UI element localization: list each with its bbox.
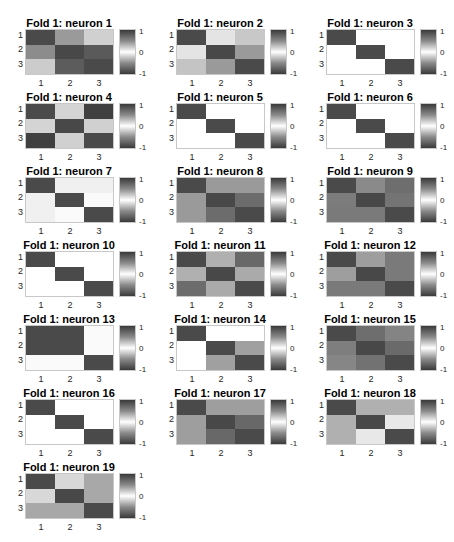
x-tick: 2 — [366, 78, 376, 88]
heatmap-cell-r1-c3 — [385, 400, 414, 415]
heatmap-cell-r3-c1 — [327, 207, 356, 222]
heatmap-cell-r2-c1 — [26, 267, 55, 282]
x-tick: 2 — [65, 448, 75, 458]
heatmap-cell-r2-c2 — [55, 45, 84, 60]
heatmap-cell-r3-c2 — [55, 281, 84, 296]
heatmap-cell-r2-c2 — [55, 193, 84, 208]
heatmap-cell-r2-c1 — [26, 193, 55, 208]
x-tick: 1 — [337, 300, 347, 310]
subplot-neuron-17: Fold 1: neuron 17 1 2 3 1 2 3 1 0 -1 — [152, 387, 302, 461]
heatmap-cell-r2-c1 — [177, 193, 206, 208]
colorbar-tick: -1 — [139, 143, 146, 152]
heatmap — [177, 104, 264, 148]
subplot-title: Fold 1: neuron 14 — [152, 313, 288, 325]
heatmap-cell-r3-c1 — [177, 133, 206, 148]
heatmap-cell-r3-c3 — [84, 429, 113, 444]
x-tick: 2 — [216, 152, 226, 162]
y-tick: 3 — [166, 429, 174, 439]
y-tick: 2 — [166, 118, 174, 128]
heatmap-cell-r1-c2 — [206, 104, 235, 119]
y-tick: 2 — [166, 44, 174, 54]
y-tick: 2 — [15, 118, 23, 128]
x-tick: 2 — [65, 152, 75, 162]
colorbar-tick: 1 — [440, 323, 444, 332]
heatmap-cell-r2-c1 — [327, 341, 356, 356]
heatmap-cell-r1-c3 — [235, 252, 264, 267]
subplot-title: Fold 1: neuron 15 — [302, 313, 438, 325]
subplot-neuron-7: Fold 1: neuron 7 1 2 3 1 2 3 1 0 -1 — [1, 165, 151, 239]
heatmap-cell-r1-c1 — [26, 178, 55, 193]
y-tick: 1 — [15, 104, 23, 114]
heatmap-cell-r1-c3 — [84, 30, 113, 45]
subplot-title: Fold 1: neuron 16 — [1, 387, 137, 399]
heatmap — [327, 104, 414, 148]
heatmap-cell-r1-c1 — [327, 252, 356, 267]
subplot-title: Fold 1: neuron 7 — [1, 165, 137, 177]
y-tick: 3 — [316, 281, 324, 291]
y-tick: 1 — [166, 326, 174, 336]
x-tick: 1 — [36, 226, 46, 236]
heatmap-cell-r3-c1 — [177, 355, 206, 370]
heatmap-cell-r3-c1 — [177, 59, 206, 74]
heatmap-cell-r2-c2 — [356, 45, 385, 60]
colorbar-tick: -1 — [440, 143, 447, 152]
x-tick: 3 — [395, 78, 405, 88]
heatmap-cell-r2-c1 — [177, 415, 206, 430]
heatmap-cell-r1-c1 — [177, 326, 206, 341]
colorbar-tick: 0 — [139, 418, 143, 427]
subplot-neuron-19: Fold 1: neuron 19 1 2 3 1 2 3 1 0 -1 — [1, 461, 151, 535]
heatmap-cell-r1-c1 — [177, 400, 206, 415]
colorbar-tick: 0 — [440, 122, 444, 131]
y-tick: 1 — [166, 30, 174, 40]
y-tick: 3 — [316, 133, 324, 143]
heatmap-cell-r3-c2 — [206, 133, 235, 148]
y-tick: 3 — [15, 133, 23, 143]
heatmap-cell-r2-c3 — [235, 267, 264, 282]
x-tick: 3 — [245, 152, 255, 162]
heatmap-cell-r1-c1 — [327, 326, 356, 341]
heatmap — [26, 30, 113, 74]
x-tick: 1 — [187, 226, 197, 236]
colorbar-tick: -1 — [290, 217, 297, 226]
heatmap-cell-r1-c1 — [26, 400, 55, 415]
heatmap-cell-r3-c3 — [84, 207, 113, 222]
heatmap-cell-r1-c1 — [177, 178, 206, 193]
heatmap-cell-r1-c2 — [206, 252, 235, 267]
heatmap-cell-r2-c1 — [26, 119, 55, 134]
colorbar — [271, 30, 286, 74]
heatmap-cell-r2-c2 — [206, 267, 235, 282]
heatmap-cell-r2-c3 — [235, 119, 264, 134]
y-tick: 2 — [166, 340, 174, 350]
heatmap-cell-r3-c1 — [177, 429, 206, 444]
heatmap-cell-r2-c2 — [356, 341, 385, 356]
heatmap-cell-r1-c2 — [55, 326, 84, 341]
y-tick: 1 — [166, 104, 174, 114]
colorbar-tick: -1 — [139, 365, 146, 374]
heatmap-cell-r1-c2 — [206, 30, 235, 45]
heatmap — [327, 326, 414, 370]
heatmap-cell-r2-c3 — [385, 415, 414, 430]
x-tick: 3 — [245, 78, 255, 88]
y-tick: 2 — [316, 118, 324, 128]
x-tick: 3 — [245, 226, 255, 236]
heatmap-cell-r3-c1 — [327, 355, 356, 370]
heatmap-cell-r3-c2 — [206, 355, 235, 370]
colorbar — [120, 178, 135, 222]
x-tick: 3 — [245, 448, 255, 458]
heatmap-cell-r3-c1 — [327, 281, 356, 296]
x-tick: 2 — [366, 226, 376, 236]
x-tick: 2 — [65, 374, 75, 384]
x-tick: 3 — [94, 448, 104, 458]
heatmap-cell-r2-c3 — [385, 193, 414, 208]
heatmap-cell-r2-c1 — [177, 45, 206, 60]
colorbar — [271, 178, 286, 222]
heatmap-cell-r1-c2 — [356, 400, 385, 415]
heatmap-cell-r1-c1 — [26, 474, 55, 489]
y-tick: 3 — [15, 281, 23, 291]
y-tick: 1 — [316, 400, 324, 410]
colorbar-tick: 0 — [440, 418, 444, 427]
y-tick: 1 — [15, 326, 23, 336]
colorbar — [120, 400, 135, 444]
x-tick: 2 — [216, 78, 226, 88]
heatmap-cell-r1-c2 — [206, 178, 235, 193]
